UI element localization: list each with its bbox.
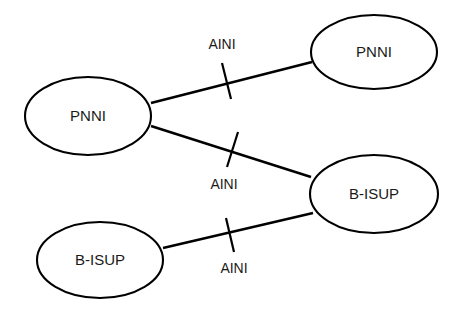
network-diagram: AINI AINI AINI PNNI PNNI [0, 0, 455, 314]
node-bisup-right[interactable]: B-ISUP [310, 155, 438, 233]
link-line [163, 213, 313, 248]
node-label: PNNI [70, 107, 106, 124]
link-pnni-left-to-pnni-top-right[interactable]: AINI [151, 36, 312, 103]
link-label: AINI [208, 36, 235, 52]
node-pnni-left[interactable]: PNNI [25, 77, 151, 155]
link-label: AINI [210, 176, 237, 192]
nodes-group: PNNI PNNI B-ISUP B-ISUP [25, 15, 438, 298]
node-label: B-ISUP [75, 251, 125, 268]
diagram-canvas: AINI AINI AINI PNNI PNNI [0, 0, 455, 314]
link-bisup-bottom-left-to-bisup-right[interactable]: AINI [163, 213, 313, 276]
node-label: PNNI [356, 43, 392, 60]
link-tick-icon [222, 63, 231, 99]
node-label: B-ISUP [349, 185, 399, 202]
link-pnni-left-to-bisup-right[interactable]: AINI [151, 126, 311, 192]
node-pnni-top-right[interactable]: PNNI [311, 15, 437, 89]
link-label: AINI [220, 260, 247, 276]
link-tick-icon [226, 218, 234, 252]
node-bisup-bottom-left[interactable]: B-ISUP [37, 222, 163, 298]
links-group: AINI AINI AINI [151, 36, 313, 276]
